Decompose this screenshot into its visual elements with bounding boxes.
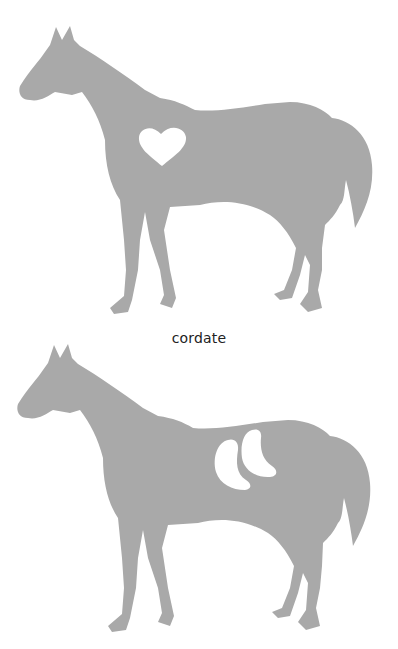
horse-silhouette-icon bbox=[0, 0, 398, 322]
horse-figure-top bbox=[0, 0, 398, 322]
horse-figure-bottom bbox=[0, 322, 398, 649]
horse-silhouette-icon bbox=[0, 322, 398, 649]
